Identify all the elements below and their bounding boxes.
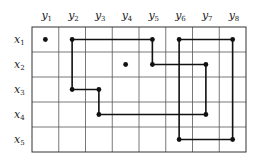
dot-x2-y5 — [150, 62, 155, 67]
column-label-y3: y3 — [94, 9, 106, 23]
cycle-paths — [72, 40, 233, 140]
dot-x1-y2 — [70, 37, 75, 42]
dot-x2-y7 — [203, 62, 208, 67]
row-label-x3: x3 — [14, 83, 25, 97]
column-label-y5: y5 — [147, 9, 159, 23]
row-labels: x1x2x3x4x5 — [14, 33, 25, 147]
dot-x1-y6 — [177, 37, 182, 42]
dot-x5-y8 — [230, 137, 235, 142]
dot-x3-y2 — [70, 87, 75, 92]
dot-x3-y3 — [96, 87, 101, 92]
row-label-x5: x5 — [14, 133, 25, 147]
column-label-y7: y7 — [201, 9, 213, 23]
row-label-x1: x1 — [14, 33, 25, 47]
column-label-y2: y2 — [67, 9, 79, 23]
grid-lines — [32, 27, 246, 152]
dot-x1-y8 — [230, 37, 235, 42]
row-label-x2: x2 — [14, 58, 25, 72]
column-label-y4: y4 — [121, 9, 133, 23]
dot-x4-y3 — [96, 112, 101, 117]
column-label-y8: y8 — [228, 9, 240, 23]
row-label-x4: x4 — [14, 108, 25, 122]
dot-x5-y6 — [177, 137, 182, 142]
dot-x2-y4 — [123, 62, 128, 67]
column-label-y6: y6 — [174, 9, 186, 23]
column-labels: y1y2y3y4y5y6y7y8 — [40, 9, 239, 23]
dot-x1-y1 — [43, 37, 48, 42]
dot-x4-y7 — [203, 112, 208, 117]
dot-x1-y5 — [150, 37, 155, 42]
bipartite-grid-diagram: y1y2y3y4y5y6y7y8 x1x2x3x4x5 — [0, 0, 258, 160]
column-label-y1: y1 — [40, 9, 52, 23]
